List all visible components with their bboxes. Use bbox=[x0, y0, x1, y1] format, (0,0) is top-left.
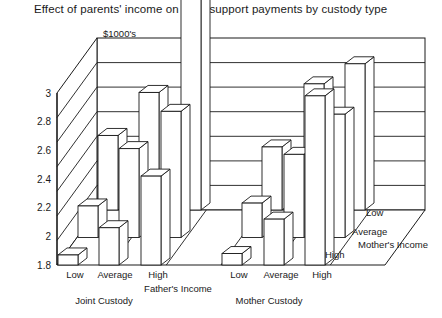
x-tick-label: High bbox=[312, 269, 332, 280]
bar-side-face bbox=[345, 107, 354, 237]
chart-figure: Effect of parents' income on child suppo… bbox=[0, 0, 442, 318]
bar bbox=[264, 219, 284, 265]
y-tick-label: 2.6 bbox=[37, 145, 51, 156]
bar-side-face bbox=[325, 89, 334, 265]
x-tick-label: Average bbox=[97, 269, 132, 280]
x-tick-label: Average bbox=[263, 269, 298, 280]
x-axis-name: Father's Income bbox=[144, 283, 212, 294]
bar-side-face bbox=[365, 57, 374, 210]
y-tick-label: 2.2 bbox=[37, 202, 51, 213]
bar bbox=[78, 206, 98, 238]
y-tick-label: 1.8 bbox=[37, 260, 51, 271]
group-label-mother: Mother Custody bbox=[235, 295, 302, 306]
group-label-joint: Joint Custody bbox=[75, 295, 133, 306]
y-tick-label: 3 bbox=[45, 88, 51, 99]
x-tick-label: Low bbox=[66, 269, 84, 280]
depth-tick-label: Low bbox=[366, 207, 384, 218]
bar-side-face bbox=[201, 0, 210, 210]
bar-side-face bbox=[161, 169, 170, 265]
x-tick-label: Low bbox=[230, 269, 248, 280]
bar-side-face bbox=[119, 221, 128, 265]
depth-tick-label: High bbox=[325, 249, 345, 260]
bar bbox=[99, 228, 119, 265]
chart-canvas: 1.8 2 2.2 2.4 2.6 2.8 3 Low Average High… bbox=[0, 0, 442, 318]
y-tick-label: 2.8 bbox=[37, 116, 51, 127]
depth-axis-name: Mother's Income bbox=[358, 239, 428, 250]
bar-side-face bbox=[284, 212, 293, 265]
bar bbox=[58, 255, 78, 265]
bar bbox=[242, 203, 262, 237]
y-tick-label: 2 bbox=[45, 231, 51, 242]
depth-tick-label: Average bbox=[352, 226, 387, 237]
bar-side-face bbox=[181, 104, 190, 237]
x-tick-label: High bbox=[148, 269, 168, 280]
bar bbox=[141, 176, 161, 265]
bar bbox=[222, 254, 242, 265]
bar bbox=[305, 96, 325, 265]
y-tick-label: 2.4 bbox=[37, 174, 51, 185]
